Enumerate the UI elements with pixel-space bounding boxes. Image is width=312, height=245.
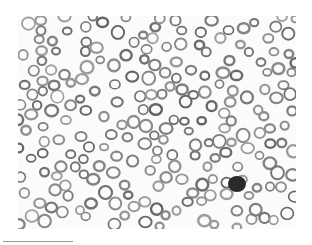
red-blood-cell [26,210,39,222]
red-blood-cell [287,106,296,115]
red-blood-cell [250,19,258,26]
red-blood-cell [282,28,294,40]
red-blood-cell [233,224,242,229]
red-blood-cell [241,143,254,154]
red-blood-cell [38,215,50,227]
red-blood-cell [161,172,172,182]
red-blood-cell [171,16,181,26]
red-blood-cell [205,190,216,200]
red-blood-cell [140,120,152,132]
red-blood-cell [199,86,211,98]
red-blood-cell [110,80,120,89]
red-blood-cell [202,48,211,57]
red-blood-cell [124,192,132,199]
red-blood-cell [52,48,60,55]
red-blood-cell [40,168,49,177]
red-blood-cell [139,32,147,39]
red-blood-cell [150,131,159,139]
red-blood-cell [111,152,122,161]
red-blood-cell [29,66,39,76]
nucleated-cell [228,176,246,192]
red-blood-cell [128,116,140,128]
red-blood-cell [85,199,97,209]
red-blood-cell [142,72,155,85]
red-blood-cell [153,146,162,155]
red-blood-cell [156,223,164,229]
red-blood-cell [177,85,188,95]
red-blood-cell [183,198,193,206]
red-blood-cell [121,50,132,60]
red-blood-cell [289,191,296,202]
red-blood-cell [40,137,50,147]
red-blood-cell [63,27,72,34]
red-blood-cell [39,123,48,131]
red-blood-cell [266,182,274,190]
red-blood-cell [107,167,120,178]
red-blood-cell [35,16,46,25]
red-blood-cell [58,16,70,22]
red-blood-cell [227,116,236,125]
red-blood-cell [67,79,75,87]
red-blood-cell [224,26,234,34]
red-blood-cell [18,144,23,153]
red-blood-cell [106,130,117,139]
red-blood-cell [112,26,124,39]
red-blood-cell [171,58,182,67]
red-blood-cell [51,90,64,103]
red-blood-cell [147,33,157,43]
red-blood-cell [180,118,189,125]
red-blood-cell [57,207,68,218]
red-blood-cell [159,136,168,144]
red-blood-cell [100,144,108,151]
red-blood-cell [205,139,213,146]
red-blood-cell [291,58,296,67]
red-blood-cell [205,16,217,26]
red-blood-cell [81,47,90,56]
red-blood-cell [166,82,175,91]
red-blood-cell [79,155,88,163]
red-blood-cell [254,106,262,115]
red-blood-cell [39,87,47,96]
red-blood-cell [139,105,148,115]
red-blood-cell [20,188,30,198]
red-blood-cell [177,27,186,35]
red-blood-cell [99,186,112,199]
red-blood-cell [96,56,104,63]
red-blood-cell [286,169,296,180]
red-blood-cell [257,58,266,66]
red-blood-cell [61,116,71,124]
red-blood-cell [276,182,286,191]
red-blood-cell [87,174,99,184]
red-blood-cell [265,139,275,147]
blood-smear-image [18,16,296,229]
red-blood-cell [18,172,25,182]
red-blood-cell [121,16,130,21]
red-blood-cell [220,148,231,157]
red-blood-cell [127,156,138,167]
red-blood-cell [25,109,37,119]
red-blood-cell [277,139,286,147]
red-blood-cell [269,48,278,55]
red-blood-cell [160,68,170,78]
red-blood-cell [138,138,151,149]
red-blood-cell [155,16,165,23]
red-blood-cell [263,34,273,43]
red-blood-cell [217,68,230,78]
red-blood-cell [232,206,243,216]
red-blood-cell [18,50,27,60]
red-blood-cell [241,91,253,103]
red-blood-cell [245,48,253,56]
red-blood-cell [129,38,138,48]
red-blood-cell [52,172,62,180]
red-blood-cell [99,112,108,121]
red-blood-cell [167,150,177,160]
red-blood-cell [46,65,56,75]
red-blood-cell [215,33,225,43]
red-blood-cell [112,97,123,106]
red-blood-cell [213,135,226,148]
red-blood-cell [196,28,206,38]
red-blood-cell [18,100,26,110]
red-blood-cell [228,86,238,96]
red-blood-cell [204,162,212,170]
red-blood-cell [236,41,245,48]
